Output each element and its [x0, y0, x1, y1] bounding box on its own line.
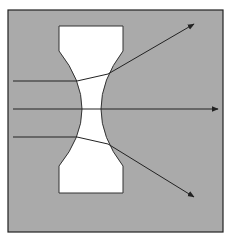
diverging-lens-diagram — [0, 0, 231, 239]
